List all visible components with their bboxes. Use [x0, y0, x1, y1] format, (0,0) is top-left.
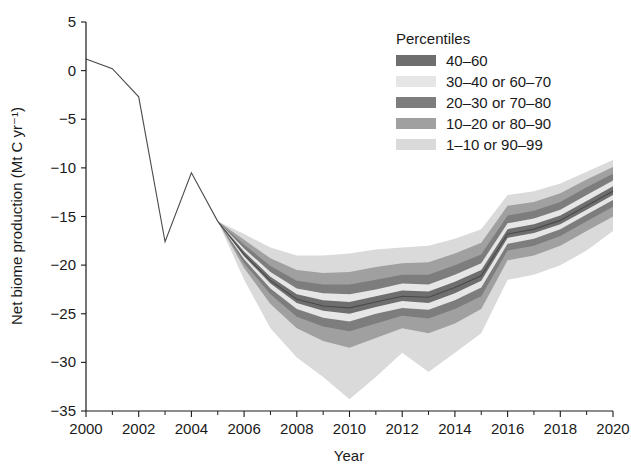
legend-swatch [396, 139, 436, 150]
y-tick-label: −20 [51, 256, 76, 273]
legend-title: Percentiles [396, 30, 470, 47]
chart-figure: 50−5−10−15−20−25−30−35 20002002200420062… [0, 0, 631, 467]
y-tick-label: 0 [68, 62, 76, 79]
y-tick-label: −30 [51, 353, 76, 370]
legend-label: 30–40 or 60–70 [446, 73, 551, 90]
legend-label: 1–10 or 90–99 [446, 136, 543, 153]
x-tick-label: 2002 [122, 420, 155, 437]
y-tick-label: −35 [51, 402, 76, 419]
y-tick-label: −25 [51, 305, 76, 322]
x-axis-title: Year [334, 447, 364, 464]
legend-label: 20–30 or 70–80 [446, 94, 551, 111]
legend-swatch [396, 55, 436, 66]
legend-swatch [396, 97, 436, 108]
y-tick-label: −10 [51, 159, 76, 176]
y-tick-label: 5 [68, 13, 76, 30]
x-tick-label: 2014 [438, 420, 471, 437]
x-tick-label: 2006 [227, 420, 260, 437]
x-tick-label: 2018 [544, 420, 577, 437]
y-tick-label: −15 [51, 208, 76, 225]
legend-swatch [396, 118, 436, 129]
x-tick-label: 2000 [69, 420, 102, 437]
legend-swatch [396, 76, 436, 87]
x-tick-label: 2010 [333, 420, 366, 437]
x-tick-label: 2020 [596, 420, 629, 437]
legend-label: 10–20 or 80–90 [446, 115, 551, 132]
x-tick-label: 2012 [386, 420, 419, 437]
x-tick-label: 2008 [280, 420, 313, 437]
legend-label: 40–60 [446, 52, 488, 69]
x-tick-label: 2004 [175, 420, 208, 437]
x-axis-tick-labels: 2000200220042006200820102012201420162018… [69, 420, 629, 437]
percentile-fan-chart: 50−5−10−15−20−25−30−35 20002002200420062… [0, 0, 631, 467]
x-tick-label: 2016 [491, 420, 524, 437]
y-tick-label: −5 [59, 110, 76, 127]
y-axis-title: Net biome production (Mt C yr⁻¹) [8, 107, 25, 325]
